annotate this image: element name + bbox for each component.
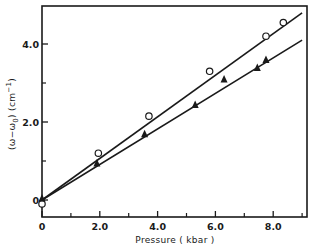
y-axis-title: (ω−ω0) (cm−1) (5, 78, 20, 150)
circle-marker (95, 150, 101, 156)
circle-marker (263, 33, 269, 39)
fit-lines (42, 13, 302, 200)
fit-line (42, 13, 302, 200)
x-tick-label: 8.0 (265, 221, 282, 232)
circle-marker (39, 201, 45, 207)
pressure-shift-chart: 02.04.06.08.002.04.0 Pressure ( kbar ) (… (0, 0, 313, 251)
tick-labels: 02.04.06.08.002.04.0 (22, 39, 282, 233)
y-tick-label: 2.0 (22, 117, 39, 128)
triangle-marker (254, 63, 261, 71)
x-axis-title: Pressure ( kbar ) (135, 235, 214, 245)
x-tick-label: 4.0 (149, 221, 166, 232)
triangle-marker (141, 130, 148, 138)
triangle-marker (221, 75, 228, 83)
x-tick-label: 6.0 (207, 221, 224, 232)
x-tick-label: 0 (39, 221, 46, 232)
fit-line (42, 40, 302, 200)
triangle-marker (262, 56, 269, 64)
circle-marker (206, 68, 212, 74)
x-tick-label: 2.0 (91, 221, 108, 232)
circle-marker (146, 113, 152, 119)
circle-marker (280, 19, 286, 25)
axis-ticks (42, 44, 302, 217)
y-tick-label: 4.0 (22, 39, 39, 50)
